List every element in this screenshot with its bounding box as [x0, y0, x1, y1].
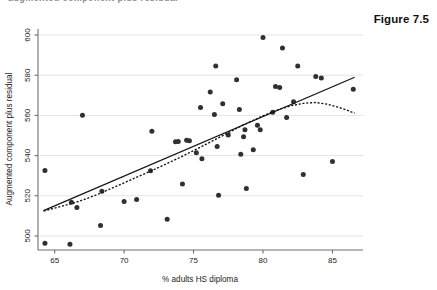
figure-caption-label: Figure 7.5: [374, 13, 429, 25]
data-point: [80, 113, 85, 118]
data-point: [208, 90, 213, 95]
data-point: [74, 205, 79, 210]
y-tick-label: 520: [23, 189, 32, 203]
x-tick-label: 75: [189, 256, 198, 265]
data-point: [212, 112, 217, 117]
figure-page: augmented component plus residual Figure…: [0, 0, 437, 290]
data-point: [98, 223, 103, 228]
clipped-header-text: augmented component plus residual: [8, 0, 208, 3]
y-tick-label: 560: [23, 108, 32, 122]
data-point: [67, 242, 72, 247]
data-points: [42, 35, 355, 247]
data-point: [273, 84, 278, 89]
x-tick-label: 85: [328, 256, 337, 265]
data-point: [313, 74, 318, 79]
data-point: [165, 217, 170, 222]
data-point: [242, 127, 247, 132]
y-axis-title: Augmented component plus residual: [5, 72, 14, 205]
data-point: [319, 76, 324, 81]
x-tick-label: 65: [50, 256, 59, 265]
data-point: [42, 168, 47, 173]
y-tick-label: 580: [23, 68, 32, 82]
data-point: [280, 46, 285, 51]
data-point: [122, 199, 127, 204]
x-tick-label: 70: [120, 256, 129, 265]
data-point: [234, 77, 239, 82]
data-point: [258, 127, 263, 132]
grid-lines: [39, 35, 363, 236]
data-point: [277, 85, 282, 90]
chart-svg: 500520540560580600 6570758085 % adults H…: [0, 18, 380, 290]
plot-frame: [38, 29, 363, 250]
linear-fit-line: [44, 77, 355, 210]
x-tick-label: 80: [259, 256, 268, 265]
data-point: [215, 144, 220, 149]
data-point: [251, 147, 256, 152]
y-axis-tick-labels: 500520540560580600: [23, 28, 32, 243]
data-point: [301, 172, 306, 177]
data-point: [216, 193, 221, 198]
data-point: [213, 63, 218, 68]
data-point: [198, 105, 203, 110]
data-point: [351, 87, 356, 92]
y-tick-label: 540: [23, 148, 32, 162]
data-point: [241, 134, 246, 139]
lowess-smooth-line: [44, 103, 355, 211]
data-point: [330, 159, 335, 164]
data-point: [149, 129, 154, 134]
data-point: [220, 101, 225, 106]
data-point: [284, 115, 289, 120]
data-point: [237, 107, 242, 112]
data-point: [42, 241, 47, 246]
data-point: [238, 152, 243, 157]
data-point: [176, 139, 181, 144]
y-tick-label: 500: [23, 229, 32, 243]
data-point: [180, 181, 185, 186]
scatter-plot-chart: 500520540560580600 6570758085 % adults H…: [0, 18, 380, 290]
data-point: [187, 138, 192, 143]
data-point: [295, 63, 300, 68]
data-point: [194, 150, 199, 155]
y-tick-label: 600: [23, 28, 32, 42]
data-point: [261, 35, 266, 40]
data-point: [199, 156, 204, 161]
data-point: [134, 197, 139, 202]
x-axis-title: % adults HS diploma: [162, 275, 238, 284]
x-axis-tick-labels: 6570758085: [50, 256, 337, 265]
data-point: [244, 186, 249, 191]
data-point: [255, 123, 260, 128]
